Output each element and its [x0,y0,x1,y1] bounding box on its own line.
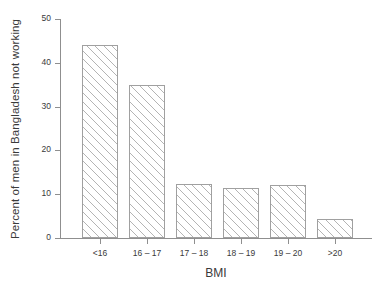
y-tick-mark [55,107,61,108]
x-tick-mark [100,239,101,244]
x-tick-mark [194,239,195,244]
x-axis-line [60,238,372,239]
bar [270,185,306,238]
y-tick-mark [55,19,61,20]
y-tick-0: 0 [0,238,61,239]
x-axis-title: BMI [60,266,372,280]
y-tick-label: 50 [11,14,51,23]
y-tick-label: 10 [11,189,51,198]
bar [223,188,259,238]
bar-chart: Percent of men in Bangladesh not working… [0,0,379,291]
y-tick-label: 20 [11,145,51,154]
bar [317,219,353,238]
x-tick-mark [241,239,242,244]
y-tick-50: 50 [0,19,61,20]
y-tick-20: 20 [0,150,61,151]
y-tick-label: 30 [11,102,51,111]
y-axis-line [60,19,61,239]
x-tick-mark [147,239,148,244]
y-tick-mark [55,63,61,64]
y-axis-title: Percent of men in Bangladesh not working [6,10,24,248]
x-tick-mark [335,239,336,244]
bar [176,184,212,238]
y-tick-mark [55,150,61,151]
y-tick-10: 10 [0,194,61,195]
bar [82,45,118,238]
y-tick-40: 40 [0,63,61,64]
y-tick-label: 0 [11,233,51,242]
bar [129,85,165,238]
y-tick-mark [55,194,61,195]
y-tick-30: 30 [0,107,61,108]
y-tick-mark [55,238,61,239]
x-tick-mark [288,239,289,244]
y-tick-label: 40 [11,58,51,67]
x-tick-label: >20 [305,248,365,258]
